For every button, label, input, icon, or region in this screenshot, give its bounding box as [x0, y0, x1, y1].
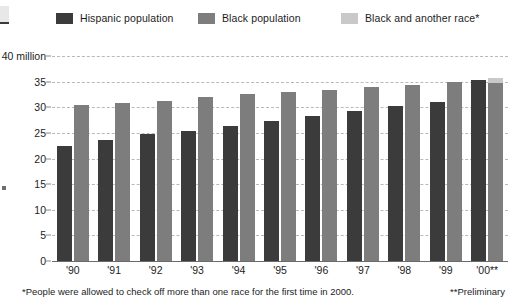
bar-hispanic-population[interactable]	[347, 111, 362, 261]
bar-black-population[interactable]	[74, 105, 89, 261]
bar-hispanic-population[interactable]	[471, 80, 486, 261]
bar-segment-hispanic	[430, 102, 445, 261]
x-axis-tick-label: '98	[384, 264, 425, 280]
x-axis-tick-label: '95	[259, 264, 300, 280]
bar-black-population[interactable]	[198, 97, 213, 261]
x-axis-tick-label: '97	[342, 264, 383, 280]
bar-segment-hispanic	[98, 140, 113, 261]
footnote-left: *People were allowed to check off more t…	[22, 286, 354, 297]
bar-group-90	[52, 56, 93, 261]
bar-series-group	[52, 56, 508, 261]
bar-hispanic-population[interactable]	[140, 134, 155, 261]
legend-item-black-and-another-race: Black and another race*	[341, 10, 479, 26]
bar-segment-hispanic	[388, 106, 403, 261]
bar-black-population[interactable]	[157, 101, 172, 261]
gridline-0	[52, 261, 508, 262]
legend-label-hispanic-population: Hispanic population	[80, 12, 174, 24]
bar-group-95	[259, 56, 300, 261]
bar-group-93	[176, 56, 217, 261]
bar-group-94	[218, 56, 259, 261]
bar-segment-black	[322, 90, 337, 261]
bar-hispanic-population[interactable]	[388, 106, 403, 261]
chart-container: Hispanic population Black population Bla…	[0, 0, 514, 308]
y-axis-tick-label: 0	[40, 255, 46, 267]
bar-segment-hispanic	[471, 80, 486, 261]
bar-group-00	[467, 56, 508, 261]
legend-item-hispanic-population: Hispanic population	[56, 10, 174, 26]
y-tick-mark-35	[46, 81, 51, 82]
x-axis-tick-label: '91	[93, 264, 134, 280]
x-axis-tick-label: '92	[135, 264, 176, 280]
bar-segment-hispanic	[181, 131, 196, 261]
y-axis-tick-label: 20	[34, 153, 46, 165]
y-axis-tick-label: 15	[34, 178, 46, 190]
bar-segment-black	[405, 85, 420, 261]
bar-segment-hispanic	[57, 146, 72, 261]
bar-segment-black	[240, 94, 255, 261]
legend-item-black-population: Black population	[198, 10, 301, 26]
bar-hispanic-population[interactable]	[305, 116, 320, 261]
y-axis-tick-label: 30	[34, 101, 46, 113]
y-tick-mark-30	[46, 107, 51, 108]
legend-swatch-black-and-another-race-icon	[341, 13, 358, 24]
y-axis-tick-label: 10	[34, 204, 46, 216]
bar-segment-black	[115, 103, 130, 261]
y-tick-mark-40	[46, 56, 51, 57]
y-axis-tick-label: 40 million	[2, 50, 46, 62]
bar-segment-hispanic	[223, 126, 238, 261]
y-axis-tick-label: 35	[34, 76, 46, 88]
bar-black-population[interactable]	[447, 82, 462, 261]
y-axis-tick-label: 5	[40, 229, 46, 241]
bar-black-population[interactable]	[115, 103, 130, 261]
bar-hispanic-population[interactable]	[430, 102, 445, 261]
x-axis-labels: '90'91'92'93'94'95'96'97'98'99'00**	[52, 264, 508, 280]
y-tick-mark-10	[46, 209, 51, 210]
footnote-right: **Preliminary	[450, 286, 505, 297]
chart-legend: Hispanic population Black population Bla…	[0, 10, 514, 32]
bar-hispanic-population[interactable]	[181, 131, 196, 261]
bar-segment-hispanic	[347, 111, 362, 261]
bar-hispanic-population[interactable]	[98, 140, 113, 261]
bar-black-population[interactable]	[364, 87, 379, 261]
bar-black-population[interactable]	[488, 78, 503, 261]
page-edge-artifact-bullet	[2, 186, 6, 190]
bar-segment-hispanic	[264, 121, 279, 261]
bar-group-91	[93, 56, 134, 261]
legend-swatch-black-icon	[198, 13, 215, 24]
y-tick-mark-15	[46, 184, 51, 185]
bar-group-98	[384, 56, 425, 261]
x-axis-tick-label: '96	[301, 264, 342, 280]
bar-segment-black	[364, 87, 379, 261]
bar-segment-black	[488, 83, 503, 261]
bar-segment-hispanic	[305, 116, 320, 261]
y-tick-mark-5	[46, 235, 51, 236]
bar-hispanic-population[interactable]	[264, 121, 279, 261]
bar-black-population[interactable]	[281, 92, 296, 261]
x-axis-tick-label: '93	[176, 264, 217, 280]
bar-segment-black	[447, 82, 462, 261]
plot-area: 0510152025303540 million	[52, 56, 508, 261]
x-axis-tick-label: '00**	[467, 264, 508, 280]
bar-hispanic-population[interactable]	[57, 146, 72, 261]
bar-group-99	[425, 56, 466, 261]
x-axis-tick-label: '90	[52, 264, 93, 280]
legend-label-black-population: Black population	[222, 12, 301, 24]
y-tick-mark-20	[46, 158, 51, 159]
bar-black-population[interactable]	[405, 85, 420, 261]
y-tick-mark-0	[46, 261, 51, 262]
legend-swatch-hispanic-icon	[56, 13, 73, 24]
y-axis-tick-label: 25	[34, 127, 46, 139]
bar-segment-hispanic	[140, 134, 155, 261]
bar-segment-black	[281, 92, 296, 261]
bar-group-97	[342, 56, 383, 261]
bar-black-population[interactable]	[240, 94, 255, 261]
x-axis-tick-label: '99	[425, 264, 466, 280]
legend-label-black-and-another-race: Black and another race*	[365, 12, 479, 24]
bar-segment-black	[157, 101, 172, 261]
bar-black-population[interactable]	[322, 90, 337, 261]
bar-group-92	[135, 56, 176, 261]
bar-hispanic-population[interactable]	[223, 126, 238, 261]
bar-group-96	[301, 56, 342, 261]
bar-segment-black	[198, 97, 213, 261]
x-axis-tick-label: '94	[218, 264, 259, 280]
